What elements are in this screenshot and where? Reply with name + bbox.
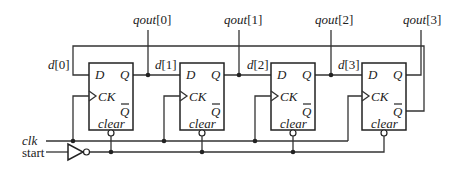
- flipflop-0: DQ CK Q clear: [89, 63, 133, 136]
- d-label-2: d[2]: [247, 57, 269, 72]
- svg-text:clear: clear: [280, 116, 308, 131]
- svg-text:Q: Q: [302, 67, 312, 82]
- flipflop-1: DQ CK Q clear: [180, 63, 224, 136]
- svg-text:D: D: [94, 67, 105, 82]
- svg-text:Q: Q: [120, 67, 130, 82]
- qout-label-2: qout[2]: [315, 12, 353, 27]
- svg-text:CK: CK: [98, 89, 117, 104]
- svg-text:Q: Q: [393, 67, 403, 82]
- svg-text:clear: clear: [189, 116, 217, 131]
- flipflop-3: DQ CK Q clear: [362, 63, 406, 136]
- svg-text:CK: CK: [280, 89, 299, 104]
- svg-text:CK: CK: [371, 89, 390, 104]
- svg-text:CK: CK: [189, 89, 208, 104]
- svg-text:clear: clear: [371, 116, 399, 131]
- qout-label-0: qout[0]: [133, 12, 171, 27]
- flipflop-2: DQ CK Q clear: [271, 63, 315, 136]
- qout-label-3: qout[3]: [403, 12, 441, 27]
- d-label-0: d[0]: [48, 57, 70, 72]
- svg-text:clear: clear: [98, 116, 126, 131]
- inverter: [68, 144, 83, 160]
- d-label-1: d[1]: [155, 57, 177, 72]
- svg-text:D: D: [367, 67, 378, 82]
- d-label-3: d[3]: [338, 57, 360, 72]
- start-label: start: [22, 145, 45, 160]
- svg-text:Q: Q: [211, 67, 221, 82]
- svg-text:D: D: [276, 67, 287, 82]
- qout-label-1: qout[1]: [224, 12, 262, 27]
- svg-text:D: D: [185, 67, 196, 82]
- counter-diagram: qout[0] qout[1] qout[2] qout[3] d[0] d[1…: [0, 0, 455, 172]
